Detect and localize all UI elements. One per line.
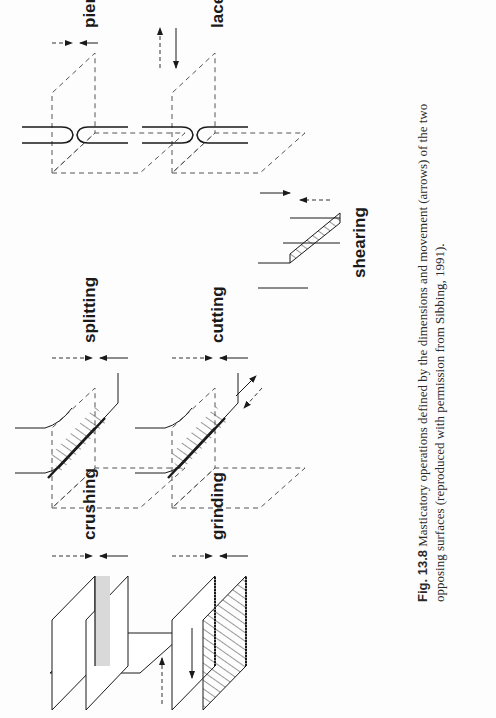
label-lacerating: lacerating bbox=[208, 0, 228, 28]
rotated-figure-frame: crushing grinding splitting cutting shea… bbox=[0, 0, 496, 718]
label-crushing: crushing bbox=[80, 468, 100, 540]
label-shearing: shearing bbox=[350, 207, 370, 278]
panel-lacerating bbox=[142, 28, 305, 173]
panel-piercing bbox=[22, 43, 185, 173]
panel-splitting bbox=[15, 358, 185, 508]
figure-number: Fig. 13.8 bbox=[415, 550, 430, 602]
panel-grinding bbox=[162, 556, 248, 710]
figure-caption: Fig. 13.8 Masticatory operations defined… bbox=[414, 72, 448, 602]
label-splitting: splitting bbox=[80, 277, 100, 343]
label-grinding: grinding bbox=[208, 472, 228, 540]
panel-shearing bbox=[258, 193, 340, 288]
label-cutting: cutting bbox=[208, 286, 228, 343]
label-piercing: piercing bbox=[80, 0, 100, 28]
caption-text: Masticatory operations defined by the di… bbox=[415, 104, 447, 602]
page: crushing grinding splitting cutting shea… bbox=[0, 0, 496, 718]
crushing-plates bbox=[52, 556, 128, 710]
